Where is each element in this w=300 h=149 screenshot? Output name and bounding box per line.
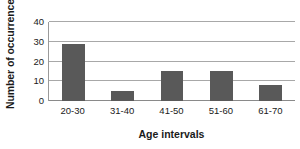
x-tick-label: 51-60 xyxy=(196,104,245,118)
x-tick-label: 31-40 xyxy=(97,104,146,118)
y-tick-label: 10 xyxy=(20,76,44,86)
y-tick-label: 20 xyxy=(20,57,44,67)
bar[interactable] xyxy=(210,71,233,101)
bar[interactable] xyxy=(111,91,134,101)
x-axis-tick-labels: 20-3031-4041-5051-6061-70 xyxy=(48,104,295,118)
bars-group xyxy=(49,22,295,101)
bar-slot xyxy=(98,22,147,101)
bar-slot xyxy=(147,22,196,101)
bar-slot xyxy=(197,22,246,101)
y-tick-label: 40 xyxy=(20,17,44,27)
y-tick-label: 0 xyxy=(20,96,44,106)
y-axis-tick-labels: 010203040 xyxy=(20,22,44,101)
bar[interactable] xyxy=(161,71,184,101)
y-axis-title: Number of occurrences xyxy=(4,0,18,109)
bar[interactable] xyxy=(62,44,85,101)
y-tick-label: 30 xyxy=(20,37,44,47)
bar-slot xyxy=(49,22,98,101)
bar[interactable] xyxy=(259,85,282,101)
x-tick-label: 20-30 xyxy=(48,104,97,118)
bar-chart: Number of occurrences 010203040 20-3031-… xyxy=(0,0,300,149)
x-tick-label: 61-70 xyxy=(246,104,295,118)
plot-area xyxy=(48,22,295,101)
x-axis-title: Age intervals xyxy=(48,128,295,140)
x-tick-label: 41-50 xyxy=(147,104,196,118)
bar-slot xyxy=(246,22,295,101)
